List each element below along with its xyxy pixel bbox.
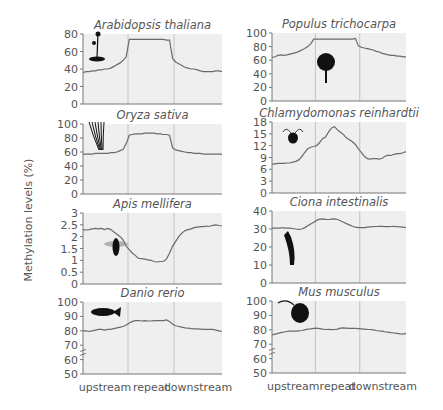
y-tick-label: 50 (253, 367, 267, 380)
y-tick-label: 0 (71, 98, 78, 111)
body (291, 303, 309, 323)
chart-title: Chlamydomonas reinhardtii (259, 106, 419, 120)
x-tick-label-downstream: downstream (349, 380, 417, 393)
cell (288, 133, 298, 144)
y-tick-label: 3 (71, 207, 78, 220)
chart-title: Danio rerio (121, 286, 185, 300)
x-tick-label-upstream: upstream (267, 380, 320, 393)
y-tick-label: 80 (64, 325, 78, 338)
chart-panel-populus-trichocarpa: 020406080100Populus trichocarpa (246, 17, 406, 108)
y-tick-label: 40 (253, 205, 267, 218)
y-tick-label: 1 (71, 254, 78, 267)
y-tick-label: 0 (260, 187, 267, 200)
y-tick-label: 100 (246, 27, 267, 40)
chart-panel-mus-musculus: 5060708090100Mus musculusupstreamrepeatd… (246, 285, 417, 393)
x-tick-label-downstream: downstream (164, 381, 232, 394)
y-tick-label: 90 (253, 309, 267, 322)
chart-title: Ciona intestinalis (290, 195, 389, 209)
y-tick-label: 6 (260, 163, 267, 176)
y-tick-label: 80 (253, 41, 267, 54)
chart-panel-ciona-intestinalis: 010203040Ciona intestinalis (253, 195, 406, 290)
chart-title: Apis mellifera (112, 197, 192, 211)
y-tick-label: 0 (260, 277, 267, 290)
y-tick-label: 70 (64, 339, 78, 352)
y-tick-label: 70 (253, 338, 267, 351)
x-tick-label-upstream: upstream (79, 381, 132, 394)
y-tick-label: 2.5 (61, 219, 79, 232)
body (91, 308, 115, 316)
body (113, 238, 120, 256)
y-tick-label: 3 (260, 175, 267, 188)
chart-panel-chlamydomonas-reinhardtii: 0369121518Chlamydomonas reinhardtii (253, 106, 420, 200)
y-tick-label: 60 (64, 46, 78, 59)
chart-title: Populus trichocarpa (282, 17, 396, 31)
chart-panel-arabidopsis-thaliana: 020406080Arabidopsis thaliana (64, 18, 222, 111)
y-tick-label: 0 (71, 188, 78, 201)
flower (92, 41, 96, 45)
y-tick-label: 100 (246, 295, 267, 308)
y-tick-label: 0.5 (61, 266, 79, 279)
chart-panel-danio-rerio: 5060708090100Danio rerioupstreamrepeatdo… (57, 286, 232, 394)
chart-panel-apis-mellifera: 00.511.522.53Apis mellifera (61, 197, 223, 291)
plot-background (83, 124, 222, 194)
y-tick-label: 40 (253, 68, 267, 81)
y-tick-label: 20 (253, 241, 267, 254)
y-tick-label: 20 (64, 174, 78, 187)
chart-panel-oryza-sativa: 020406080100Oryza sativa (57, 108, 222, 201)
flower (96, 32, 101, 37)
y-tick-label: 80 (64, 132, 78, 145)
y-tick-label: 50 (64, 368, 78, 381)
y-tick-label: 40 (64, 63, 78, 76)
y-tick-label: 20 (64, 81, 78, 94)
y-tick-label: 90 (64, 310, 78, 323)
y-tick-label: 20 (253, 81, 267, 94)
y-tick-label: 60 (253, 353, 267, 366)
y-tick-label: 80 (64, 28, 78, 41)
y-tick-label: 0 (71, 278, 78, 291)
y-tick-label: 80 (253, 324, 267, 337)
y-tick-label: 100 (57, 296, 78, 309)
plot-background (272, 33, 406, 101)
methylation-figure: 020406080Arabidopsis thaliana02040608010… (0, 0, 443, 410)
y-tick-label: 2 (71, 231, 78, 244)
chart-title: Mus musculus (298, 285, 379, 299)
rosette (89, 57, 105, 62)
y-tick-label: 30 (253, 223, 267, 236)
plot-background (83, 213, 222, 284)
chart-title: Arabidopsis thaliana (93, 18, 211, 32)
y-tick-label: 100 (57, 118, 78, 131)
y-tick-label: 12 (253, 140, 267, 153)
y-tick-label: 40 (64, 160, 78, 173)
y-tick-label: 9 (260, 152, 267, 165)
y-tick-label: 1.5 (61, 243, 79, 256)
chart-title: Oryza sativa (117, 108, 189, 122)
y-tick-label: 15 (253, 128, 267, 141)
y-tick-label: 60 (64, 146, 78, 159)
y-tick-label: 60 (253, 54, 267, 67)
trunk (325, 67, 327, 83)
y-tick-label: 60 (64, 354, 78, 367)
y-tick-label: 10 (253, 259, 267, 272)
